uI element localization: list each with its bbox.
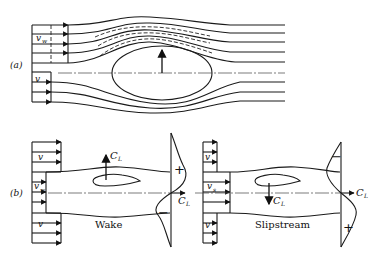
streamlines-upper	[68, 17, 285, 63]
velocity-label-vw: v	[36, 33, 41, 43]
slipstream-lift-label: C	[273, 195, 281, 206]
wake-boundary-upper	[46, 167, 170, 172]
velocity-profile-upper: v w	[32, 25, 68, 102]
wake-cl-axis-label: C	[178, 195, 186, 206]
wake-airfoil	[93, 174, 140, 186]
slipstream-velocity-profile: v v s v	[203, 142, 230, 243]
streamlines-lower	[51, 82, 285, 113]
panel-b-wake: (b) v v w v	[10, 133, 190, 247]
slipstream-velocity-middle-label: v	[207, 181, 212, 191]
slipstream-boundary-lower	[230, 213, 340, 217]
velocity-label-v: v	[35, 74, 40, 84]
slipstream-airfoil	[255, 174, 300, 186]
slipstream-velocity-lower-label: v	[205, 220, 210, 230]
svg-text:L: L	[363, 192, 368, 199]
wake-velocity-middle-label: v	[34, 181, 39, 191]
wake-velocity-lower-label: v	[38, 219, 43, 229]
velocity-profile-lower: v	[32, 72, 51, 102]
wake-positive-sign: +	[174, 162, 185, 177]
slipstream-velocity-upper-label: v	[205, 152, 210, 162]
wake-negative-sign: −	[158, 205, 169, 220]
svg-text:s: s	[213, 186, 216, 193]
wake-caption: Wake	[95, 219, 122, 230]
wake-lift-label: C	[110, 150, 118, 161]
wake-velocity-profile: v v w v	[32, 142, 61, 243]
svg-text:w: w	[40, 186, 46, 193]
slipstream-boundary-upper	[230, 167, 340, 172]
slipstream-caption: Slipstream	[255, 219, 310, 230]
slipstream-positive-sign: +	[343, 220, 354, 235]
panel-b-slipstream: v v s v C L C L − + Slipstream	[195, 142, 368, 247]
panel-a-label: (a)	[10, 60, 23, 70]
slipstream-cl-axis-label: C	[356, 187, 364, 198]
panel-a: (a) v w v	[10, 17, 285, 113]
svg-text:L: L	[185, 200, 190, 207]
wake-velocity-upper-label: v	[38, 152, 43, 162]
slipstream-negative-sign: −	[331, 149, 342, 164]
svg-text:L: L	[280, 200, 285, 207]
svg-text:L: L	[117, 155, 122, 162]
wake-boundary-lower	[46, 213, 170, 217]
flow-diagram: (a) v w v	[0, 0, 372, 253]
panel-b-label: (b)	[10, 188, 23, 198]
svg-text:w: w	[42, 37, 48, 44]
